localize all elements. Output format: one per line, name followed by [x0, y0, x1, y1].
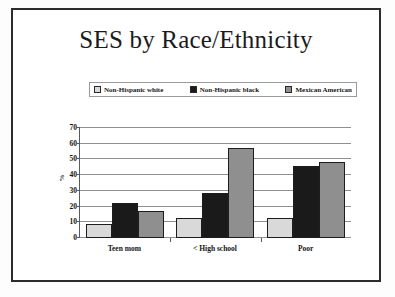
slide-page: SES by Race/Ethnicity Non-Hispanic white…	[0, 0, 395, 297]
bar-group	[170, 128, 260, 238]
category-label: Teen mom	[79, 244, 170, 253]
y-axis-tick-label: 60	[70, 138, 78, 147]
legend-swatch-icon	[285, 86, 292, 93]
y-axis-tick-label: 30	[70, 185, 78, 194]
plot-area: 010203040506070	[79, 128, 351, 238]
category-axis-labels: Teen mom< High schoolPoor	[79, 244, 351, 253]
y-axis-tick-label: 10	[70, 217, 78, 226]
bar-chart: Non-Hispanic whiteNon-Hispanic blackMexi…	[37, 82, 359, 262]
bar-group	[261, 128, 351, 238]
bar	[293, 166, 319, 238]
y-axis-tick-label: 50	[70, 154, 78, 163]
bar	[86, 224, 112, 238]
y-axis-tick-label: 40	[70, 170, 78, 179]
legend-item: Non-Hispanic white	[94, 86, 163, 94]
bar	[112, 203, 138, 238]
y-axis-tick-label: 70	[70, 123, 78, 132]
legend-item: Mexican American	[285, 86, 352, 94]
bar	[267, 218, 293, 238]
category-label: Poor	[260, 244, 351, 253]
bars-layer	[80, 128, 351, 238]
x-axis-tick-mark	[170, 238, 171, 242]
legend-label: Non-Hispanic white	[104, 86, 163, 94]
y-axis-title: %	[58, 175, 66, 182]
legend-swatch-icon	[190, 86, 197, 93]
bar	[176, 218, 202, 238]
page-title: SES by Race/Ethnicity	[13, 26, 379, 54]
bar	[228, 148, 254, 238]
chart-legend: Non-Hispanic whiteNon-Hispanic blackMexi…	[89, 82, 357, 97]
bar	[319, 162, 345, 238]
plot-wrapper: % 010203040506070 Teen mom< High schoolP…	[37, 122, 359, 262]
legend-item: Non-Hispanic black	[190, 86, 259, 94]
bar-group	[80, 128, 170, 238]
legend-swatch-icon	[94, 86, 101, 93]
y-axis-tick-label: 20	[70, 201, 78, 210]
x-axis-tick-mark	[261, 238, 262, 242]
legend-label: Mexican American	[295, 86, 352, 94]
category-label: < High school	[170, 244, 261, 253]
bar	[138, 211, 164, 239]
slide-frame: SES by Race/Ethnicity Non-Hispanic white…	[11, 8, 381, 282]
bar	[202, 193, 228, 238]
legend-label: Non-Hispanic black	[200, 86, 259, 94]
